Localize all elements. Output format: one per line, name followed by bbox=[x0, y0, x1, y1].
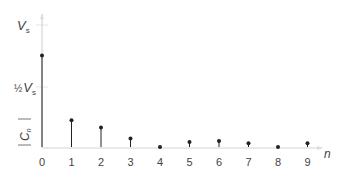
stem-marker bbox=[158, 145, 162, 149]
vs-label: Vs bbox=[17, 18, 30, 35]
x-tick-label: 1 bbox=[68, 156, 74, 168]
y-axis-arrow-icon bbox=[40, 13, 44, 19]
x-tick-label: 2 bbox=[98, 156, 104, 168]
x-axis-label: n bbox=[324, 147, 331, 161]
stem-marker bbox=[217, 139, 221, 143]
stem-marker bbox=[247, 141, 251, 145]
stem-chart: 0123456789 Vs ½Vs Cn n bbox=[0, 0, 353, 177]
x-tick-labels: 0123456789 bbox=[39, 156, 311, 168]
y-axis-label: Cn bbox=[18, 119, 32, 145]
x-axis-arrow-icon bbox=[317, 146, 323, 150]
stem-marker bbox=[40, 54, 44, 58]
x-tick-label: 5 bbox=[186, 156, 192, 168]
stem-marker bbox=[129, 136, 133, 140]
stem-marker bbox=[188, 140, 192, 144]
stem-marker bbox=[306, 141, 310, 145]
stem-marker bbox=[276, 145, 280, 149]
x-tick-label: 9 bbox=[304, 156, 310, 168]
half-vs-label: ½Vs bbox=[14, 80, 36, 97]
x-tick-label: 7 bbox=[245, 156, 251, 168]
svg-text:Cn: Cn bbox=[18, 128, 32, 141]
x-tick-label: 8 bbox=[275, 156, 281, 168]
stem-marker bbox=[70, 118, 74, 122]
x-tick-label: 3 bbox=[127, 156, 133, 168]
x-tick-label: 4 bbox=[157, 156, 163, 168]
stem-series bbox=[40, 54, 310, 150]
x-tick-label: 6 bbox=[216, 156, 222, 168]
x-tick-label: 0 bbox=[39, 156, 45, 168]
stem-marker bbox=[99, 125, 103, 129]
